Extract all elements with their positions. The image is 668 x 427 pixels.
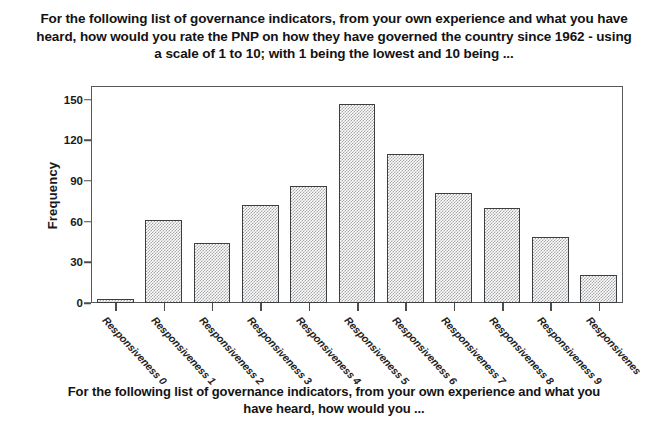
y-tick-label: 0: [49, 297, 83, 309]
bar: [290, 186, 327, 303]
y-tick-mark: [84, 140, 91, 142]
bar: [484, 208, 521, 303]
x-tick-mark: [164, 303, 166, 311]
chart-page: For the following list of governance ind…: [0, 0, 668, 427]
bar: [387, 154, 424, 303]
bar-series: [91, 86, 623, 303]
y-tick-mark: [84, 99, 91, 101]
y-tick-label: 60: [49, 216, 83, 228]
x-tick-mark: [260, 303, 262, 311]
x-tick-mark: [212, 303, 214, 311]
chart-caption: For the following list of governance ind…: [54, 383, 614, 417]
bar: [532, 237, 569, 303]
bar: [145, 220, 182, 303]
bar: [339, 104, 376, 303]
bar: [194, 243, 231, 303]
bar: [435, 193, 472, 303]
x-tick-mark: [454, 303, 456, 311]
bar: [580, 275, 617, 303]
bar-chart: Frequency 0306090120150 Responsiveness 0…: [0, 0, 668, 427]
y-tick-mark: [84, 302, 91, 304]
y-tick-mark: [84, 180, 91, 182]
y-tick-mark: [84, 262, 91, 264]
y-axis-label: Frequency: [45, 136, 60, 256]
y-tick-mark: [84, 221, 91, 223]
y-tick-label: 90: [49, 175, 83, 187]
x-tick-mark: [599, 303, 601, 311]
x-tick-mark: [550, 303, 552, 311]
bar: [242, 205, 279, 303]
x-tick-mark: [502, 303, 504, 311]
x-tick-mark: [405, 303, 407, 311]
y-tick-label: 120: [49, 134, 83, 146]
x-tick-mark: [309, 303, 311, 311]
y-tick-label: 30: [49, 256, 83, 268]
x-tick-mark: [357, 303, 359, 311]
y-tick-label: 150: [49, 94, 83, 106]
x-tick-mark: [115, 303, 117, 311]
